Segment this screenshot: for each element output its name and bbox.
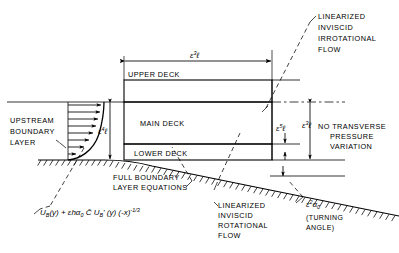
upstream-bl-label-line3: LAYER [10,138,36,147]
upper-deck-label: UPPER DECK [128,70,180,79]
turning-angle-symbol: ε2α0 [306,199,320,210]
upstream-bl-label-line1: UPSTREAM [10,116,54,125]
profile-tick [60,143,66,148]
rotational-flow-line2: INVISCID [218,211,253,220]
figure-canvas: UPPER DECK MAIN DECK LOWER DECK UPSTREAM… [0,0,399,253]
velocity-profile-formula: UB(y) + εhα0 C̄ UB' (y) (-x)-1/3 [40,207,140,218]
no-transverse-line1: NO TRANSVERSE [318,122,386,131]
lower-deck-height-symbol: ε5ℓ [276,123,286,133]
rotational-flow-line3: ROTATIONAL [218,221,268,230]
turning-angle-line2: ANGLE) [306,224,334,232]
irrotational-flow-line1: LINEARIZED [318,12,365,21]
upper-deck-height-symbol: ε3ℓ [302,120,312,130]
full-bl-equations-line2: LAYER EQUATIONS [113,183,188,192]
profile-tick-dash [56,140,60,143]
irrotational-leader-line [266,16,316,108]
no-transverse-line3: VARIATION [330,142,372,151]
main-deck-height-symbol: ε4ℓ [98,126,108,136]
lower-deck-label: LOWER DECK [134,149,188,158]
rotational-flow-line4: FLOW [218,231,241,240]
triple-deck-diagram: UPPER DECK MAIN DECK LOWER DECK UPSTREAM… [0,0,399,253]
irrotational-flow-line3: IRROTATIONAL [318,34,376,43]
irrotational-flow-line2: INVISCID [318,23,353,32]
full-bl-equations-line1: FULL BOUNDARY [113,173,180,182]
main-deck-label: MAIN DECK [140,119,185,128]
upper-deck-height-dimension: ε3ℓ [302,103,312,159]
upstream-bl-label-line2: BOUNDARY [10,127,55,136]
rotational-flow-line1: LINEARIZED [218,201,265,210]
horizontal-extent-symbol: ε3ℓ [190,50,200,60]
irrotational-flow-line4: FLOW [318,45,341,54]
corner-tick [262,106,268,112]
lower-deck-height-dimension: ε5ℓ [276,123,286,160]
no-transverse-line2: PRESSURE [330,132,374,141]
turning-angle-line1: (TURNING [306,214,343,222]
upper-deck-box [124,80,272,102]
